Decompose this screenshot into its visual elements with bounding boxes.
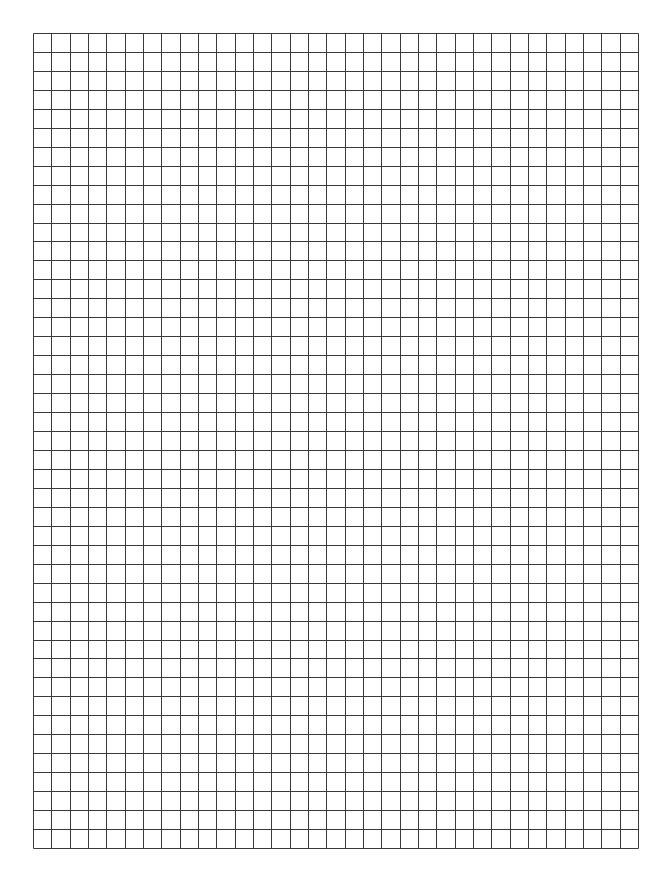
grid-lines [33,33,639,849]
square-grid [33,33,638,848]
graph-paper-page [0,0,670,889]
